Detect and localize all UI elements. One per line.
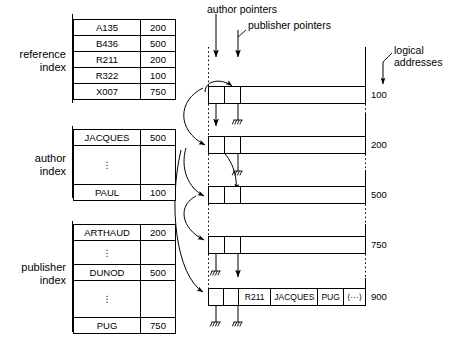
index-key: JACQUES [74, 130, 141, 146]
table-row[interactable]: PUG 750 [74, 318, 176, 334]
table-row[interactable]: R322 100 [74, 68, 176, 84]
record-more-field: ⟨···⟩ [344, 289, 365, 305]
logical-address-value: 750 [371, 239, 387, 250]
record-body-cell [241, 237, 365, 253]
index-value: 500 [141, 36, 176, 52]
author-index-table: JACQUES 500 ⋮ PAUL 100 [73, 129, 176, 201]
logical-address-value: 500 [371, 189, 387, 200]
index-key: DUNOD [74, 265, 141, 281]
author-pointers-label: author pointers [207, 3, 277, 15]
index-value: 750 [141, 84, 176, 100]
index-key: PAUL [74, 185, 141, 201]
index-key: R211 [74, 52, 141, 68]
record-body-cell [241, 87, 365, 103]
vertical-ellipsis-icon: ⋮ [76, 163, 138, 167]
record-row[interactable] [208, 86, 366, 104]
publisher-pointer-cell[interactable] [225, 87, 241, 103]
ellipsis-cell: ⋮ [74, 241, 141, 265]
table-row[interactable]: PAUL 100 [74, 185, 176, 201]
record-body-cell [241, 187, 365, 203]
record-author-field: JACQUES [271, 289, 318, 305]
record-row[interactable] [208, 136, 366, 154]
index-value: 100 [141, 68, 176, 84]
index-value: 200 [141, 52, 176, 68]
author-pointer-cell[interactable] [209, 237, 225, 253]
table-row-gap: ⋮ [74, 281, 176, 318]
logical-address-value: 100 [371, 89, 387, 100]
publisher-pointers-label: publisher pointers [248, 19, 331, 31]
record-row-detail[interactable]: R211 JACQUES PUG ⟨···⟩ [208, 288, 366, 306]
ellipsis-cell: ⋮ [74, 281, 141, 318]
ellipsis-cell: ⋮ [74, 146, 141, 185]
ellipsis-cell-value [141, 281, 176, 318]
publisher-pointer-cell[interactable] [224, 289, 239, 305]
reference-index-label: reference index [0, 48, 66, 74]
publisher-index-label: publisher index [0, 261, 66, 287]
index-value: 500 [141, 265, 176, 281]
record-row[interactable] [208, 186, 366, 204]
record-reference-field: R211 [239, 289, 271, 305]
author-pointer-cell[interactable] [209, 137, 225, 153]
table-row[interactable]: B436 500 [74, 36, 176, 52]
index-key: PUG [74, 318, 141, 334]
table-row[interactable]: DUNOD 500 [74, 265, 176, 281]
record-body-cell [241, 137, 365, 153]
logical-addresses-label: logical addresses [394, 44, 442, 68]
table-row[interactable]: R211 200 [74, 52, 176, 68]
author-pointer-cell[interactable] [209, 187, 225, 203]
record-row[interactable] [208, 236, 366, 254]
publisher-pointer-cell[interactable] [225, 137, 241, 153]
index-value: 200 [141, 225, 176, 241]
index-key: B436 [74, 36, 141, 52]
author-index-label: author index [0, 152, 66, 178]
record-publisher-field: PUG [318, 289, 343, 305]
table-row-gap: ⋮ [74, 241, 176, 265]
reference-index-table: A135 200 B436 500 R211 200 R322 100 X007… [73, 19, 176, 100]
index-value: 750 [141, 318, 176, 334]
vertical-ellipsis-icon: ⋮ [76, 297, 138, 301]
index-key: X007 [74, 84, 141, 100]
index-key: R322 [74, 68, 141, 84]
logical-address-value: 900 [371, 291, 387, 302]
publisher-pointer-cell[interactable] [225, 187, 241, 203]
index-value: 100 [141, 185, 176, 201]
table-row[interactable]: ARTHAUD 200 [74, 225, 176, 241]
publisher-index-table: ARTHAUD 200 ⋮ DUNOD 500 ⋮ PUG 750 [73, 224, 176, 334]
ellipsis-cell-value [141, 146, 176, 185]
vertical-ellipsis-icon: ⋮ [76, 251, 138, 255]
ellipsis-cell-value [141, 241, 176, 265]
author-pointer-cell[interactable] [209, 289, 224, 305]
author-pointer-cell[interactable] [209, 87, 225, 103]
logical-address-value: 200 [371, 139, 387, 150]
table-row-gap: ⋮ [74, 146, 176, 185]
table-row[interactable]: X007 750 [74, 84, 176, 100]
table-row[interactable]: JACQUES 500 [74, 130, 176, 146]
diagram-canvas: reference index author index publisher i… [0, 0, 453, 340]
index-value: 200 [141, 20, 176, 36]
index-value: 500 [141, 130, 176, 146]
index-key: A135 [74, 20, 141, 36]
index-key: ARTHAUD [74, 225, 141, 241]
publisher-pointer-cell[interactable] [225, 237, 241, 253]
table-row[interactable]: A135 200 [74, 20, 176, 36]
